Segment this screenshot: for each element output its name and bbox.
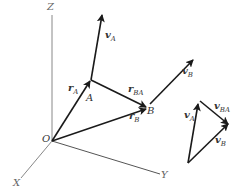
triangle-v-a-label: vA: [184, 110, 195, 123]
triangle-v-b-label: vB: [215, 135, 226, 148]
v-b-label: vB: [182, 66, 193, 79]
v-a-label: vA: [105, 30, 116, 43]
v-a-arrow: [91, 15, 102, 80]
point-b-label: B: [147, 106, 154, 116]
y-axis-label: Y: [161, 170, 168, 180]
origin-label: O: [42, 134, 50, 144]
x-axis-label: X: [13, 178, 20, 188]
r-ba-label: rBA: [128, 84, 143, 97]
z-axis-label: Z: [47, 2, 54, 12]
diagram-canvas: [0, 0, 248, 192]
r-b-label: rB: [129, 111, 139, 124]
y-axis: [52, 141, 160, 174]
x-axis: [21, 141, 52, 178]
point-a-label: A: [86, 93, 93, 103]
triangle-v-ba-label: vBA: [214, 101, 230, 114]
r-a-label: rA: [68, 83, 78, 96]
